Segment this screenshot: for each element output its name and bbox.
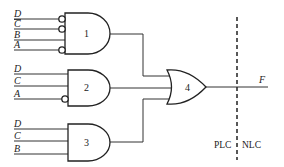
gate-2-label: 2 bbox=[84, 82, 89, 93]
gate-3-inputs: D C B bbox=[13, 118, 68, 154]
gate-2-inputs: D C A bbox=[13, 63, 68, 99]
input-label-a: A bbox=[13, 39, 21, 50]
input-label-d: D bbox=[13, 63, 22, 74]
inversion-bubble bbox=[62, 96, 68, 102]
input-label-d: D bbox=[13, 118, 22, 129]
gate-1-inputs: D C B A bbox=[13, 8, 65, 50]
gate-3-label: 3 bbox=[84, 137, 89, 148]
input-label-b: B bbox=[14, 143, 20, 154]
input-label-c: C bbox=[14, 130, 21, 141]
inversion-bubble bbox=[59, 16, 65, 22]
logic-diagram: D C B A 1 D C A 2 D C B 3 4 F PLC bbox=[0, 0, 284, 167]
wire-gate3-to-or bbox=[110, 99, 170, 142]
and-gate-2 bbox=[68, 70, 110, 106]
input-label-c: C bbox=[14, 75, 21, 86]
gate-4-label: 4 bbox=[185, 82, 190, 93]
gate-1-label: 1 bbox=[84, 28, 89, 39]
wire-gate1-to-or bbox=[110, 34, 170, 76]
plc-label: PLC bbox=[214, 140, 231, 150]
nlc-label: NLC bbox=[242, 140, 261, 150]
inversion-bubble bbox=[59, 26, 65, 32]
inversion-bubble bbox=[59, 47, 65, 53]
input-label-a: A bbox=[13, 88, 21, 99]
output-label-f: F bbox=[258, 74, 266, 85]
